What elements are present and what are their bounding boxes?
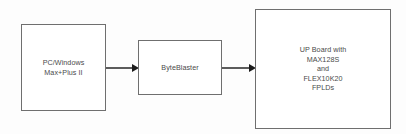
diagram-block-byteblaster: ByteBlaster (138, 40, 222, 95)
block-diagram-canvas: PC/Windows Max+Plus II ByteBlaster UP Bo… (0, 0, 406, 134)
arrow-shaft (106, 67, 133, 68)
arrow-byteblaster-to-upboard (222, 63, 256, 73)
diagram-block-up-board-label: UP Board with MAX128S and FLEX10K20 FPLD… (300, 45, 346, 92)
diagram-block-pc-windows-label: PC/Windows Max+Plus II (43, 58, 85, 77)
arrow-pc-to-byteblaster (106, 63, 139, 73)
diagram-block-pc-windows: PC/Windows Max+Plus II (21, 24, 106, 111)
arrow-shaft (222, 67, 250, 68)
diagram-block-byteblaster-label: ByteBlaster (161, 63, 198, 72)
diagram-block-up-board: UP Board with MAX128S and FLEX10K20 FPLD… (255, 9, 391, 129)
